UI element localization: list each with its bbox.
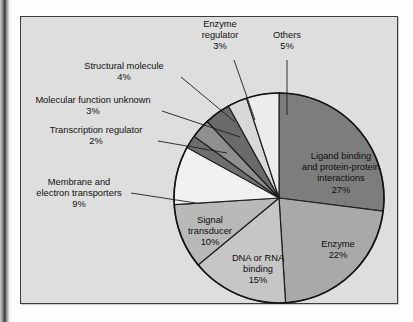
slice-label-enzyme: Enzyme 22%	[302, 239, 374, 261]
slice-label-enzyme-line1: Enzyme	[302, 239, 374, 250]
slice-label-signal-transducer: Signal transducer 10%	[171, 215, 249, 249]
callout-structural-molecule: Structural molecule 4%	[68, 61, 180, 83]
callout-enzyme-regulator: Enzyme regulator 3%	[184, 19, 256, 53]
callout-molecular-function-unknown: Molecular function unknown 3%	[25, 95, 161, 117]
callout-others-line1: Others	[261, 30, 313, 41]
slice-label-dna-rna-binding-pct: 15%	[217, 275, 299, 286]
callout-transcription-regulator: Transcription regulator 2%	[40, 125, 152, 147]
pie-chart: Enzyme regulator 3% Others 5% Structural…	[21, 17, 397, 303]
callout-enzyme-regulator-line2: regulator	[184, 30, 256, 41]
slice-label-signal-transducer-line1: Signal	[171, 215, 249, 226]
scan-gutter-edge	[9, 0, 12, 322]
slice-label-ligand-binding-line3: interactions	[289, 173, 393, 184]
callout-membrane-transporters: Membrane and electron transporters 9%	[25, 177, 133, 211]
slice-label-dna-rna-binding-line2: binding	[217, 264, 299, 275]
callout-transcription-regulator-pct: 2%	[40, 136, 152, 147]
callout-molecular-function-unknown-line1: Molecular function unknown	[25, 95, 161, 106]
slice-label-enzyme-pct: 22%	[302, 250, 374, 261]
callout-membrane-transporters-pct: 9%	[25, 199, 133, 210]
callout-molecular-function-unknown-pct: 3%	[25, 106, 161, 117]
slice-label-ligand-binding-line1: Ligand binding	[289, 151, 393, 162]
callout-transcription-regulator-line1: Transcription regulator	[40, 125, 152, 136]
callout-enzyme-regulator-line1: Enzyme	[184, 19, 256, 30]
callout-membrane-transporters-line2: electron transporters	[25, 188, 133, 199]
slice-label-ligand-binding: Ligand binding and protein-protein inter…	[289, 151, 393, 196]
slice-label-signal-transducer-line2: transducer	[171, 226, 249, 237]
slice-label-dna-rna-binding-line1: DNA or RNA	[217, 253, 299, 264]
slice-label-signal-transducer-pct: 10%	[171, 237, 249, 248]
figure-panel: Enzyme regulator 3% Others 5% Structural…	[20, 16, 398, 304]
callout-membrane-transporters-line1: Membrane and	[25, 177, 133, 188]
slice-label-dna-rna-binding: DNA or RNA binding 15%	[217, 253, 299, 287]
callout-others: Others 5%	[261, 30, 313, 52]
figure-page: Enzyme regulator 3% Others 5% Structural…	[0, 0, 413, 322]
callout-enzyme-regulator-pct: 3%	[184, 41, 256, 52]
slice-label-ligand-binding-pct: 27%	[289, 185, 393, 196]
callout-others-pct: 5%	[261, 41, 313, 52]
scan-gutter-artifact	[0, 0, 9, 322]
callout-structural-molecule-pct: 4%	[68, 72, 180, 83]
callout-structural-molecule-line1: Structural molecule	[68, 61, 180, 72]
leader-line-structural-molecule	[181, 77, 235, 122]
slice-label-ligand-binding-line2: and protein-protein	[289, 162, 393, 173]
